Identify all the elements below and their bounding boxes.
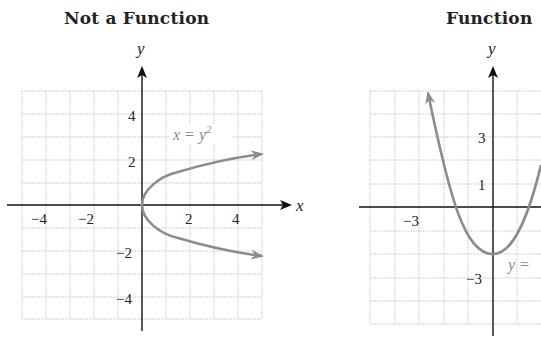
- x-tick: −4: [31, 211, 47, 227]
- x-axis-label: x: [295, 196, 304, 215]
- y-tick: 1: [478, 177, 486, 193]
- y-tick: 2: [128, 154, 136, 170]
- panel-not-a-function: Not a Function: [0, 0, 330, 344]
- y-tick: −3: [466, 271, 482, 287]
- x-tick: −2: [78, 211, 94, 227]
- x-tick: 2: [185, 211, 193, 227]
- x-tick: −3: [403, 213, 419, 229]
- x-tick: 4: [232, 211, 240, 227]
- y-tick: −4: [116, 291, 132, 307]
- y-axis-label: y: [486, 39, 496, 58]
- y-tick: 3: [478, 130, 486, 146]
- y-tick: 4: [128, 108, 136, 124]
- equation-label-partial: y =: [506, 256, 530, 274]
- y-axis-label: y: [135, 39, 145, 58]
- curve-upper: [142, 154, 262, 205]
- curve-parabola: [428, 93, 541, 254]
- graph-x-equals-y-squared: x y −4 −2 2 4 4 2 −2 −4 x = y2: [0, 0, 330, 344]
- panel-function: Function: [340, 0, 541, 344]
- curve-lower: [142, 205, 262, 256]
- y-tick: −2: [116, 245, 132, 261]
- graph-y-equals-x-squared-minus-2: y −3 3 1 −3 y =: [340, 0, 541, 344]
